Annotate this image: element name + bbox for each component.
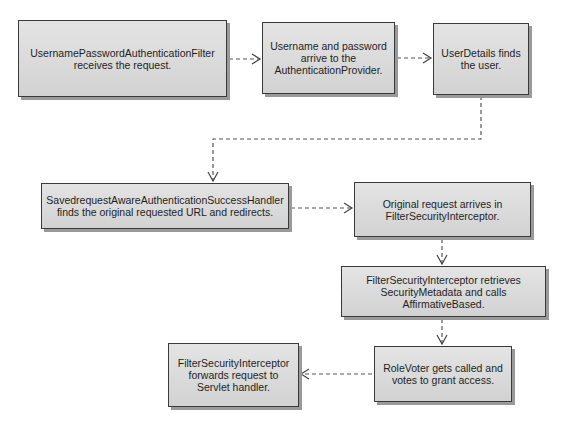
- node-username-password-filter: UsernamePasswordAuthenticationFilter rec…: [18, 20, 227, 97]
- edge-n3-n4: [213, 96, 481, 181]
- node-retrieve-metadata: FilterSecurityInterceptor retrieves Secu…: [341, 266, 546, 317]
- node-label: FilterSecurityInterceptor retrieves Secu…: [344, 274, 543, 310]
- flowchart-canvas: UsernamePasswordAuthenticationFilter rec…: [0, 0, 563, 428]
- node-label: UsernamePasswordAuthenticationFilter rec…: [21, 47, 224, 71]
- node-rolevoter: RoleVoter gets called and votes to grant…: [374, 346, 512, 402]
- node-label: FilterSecurityInterceptor forwards reque…: [171, 357, 296, 393]
- node-authentication-provider: Username and password arrive to the Auth…: [262, 22, 395, 94]
- node-label: RoleVoter gets called and votes to grant…: [377, 362, 509, 386]
- node-label: SavedrequestAwareAuthenticationSuccessHa…: [44, 194, 286, 218]
- node-success-handler: SavedrequestAwareAuthenticationSuccessHa…: [41, 183, 289, 229]
- node-label: Username and password arrive to the Auth…: [265, 40, 392, 76]
- node-original-request: Original request arrives in FilterSecuri…: [354, 182, 531, 237]
- node-label: Original request arrives in FilterSecuri…: [357, 198, 528, 222]
- node-userdetails: UserDetails finds the user.: [433, 23, 529, 95]
- node-label: UserDetails finds the user.: [436, 47, 526, 71]
- node-forward-to-servlet: FilterSecurityInterceptor forwards reque…: [168, 343, 299, 407]
